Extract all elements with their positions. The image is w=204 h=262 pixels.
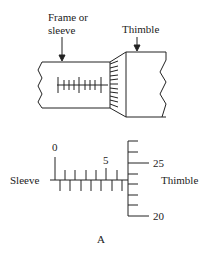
thimble-mark-20: 20 bbox=[153, 210, 164, 222]
thimble-label-top: Thimble bbox=[122, 23, 159, 35]
sleeve-mark-5: 5 bbox=[103, 154, 109, 166]
frame-sleeve-label-line1: Frame or bbox=[48, 11, 88, 23]
figure-caption: A bbox=[97, 233, 105, 245]
thimble-label-scale: Thimble bbox=[161, 174, 198, 186]
sleeve-label: Sleeve bbox=[10, 174, 39, 186]
sleeve-mark-0: 0 bbox=[52, 141, 58, 153]
thimble-mark-25: 25 bbox=[153, 157, 164, 169]
micrometer-illustration bbox=[0, 0, 204, 130]
frame-sleeve-label-line2: sleeve bbox=[48, 24, 75, 36]
